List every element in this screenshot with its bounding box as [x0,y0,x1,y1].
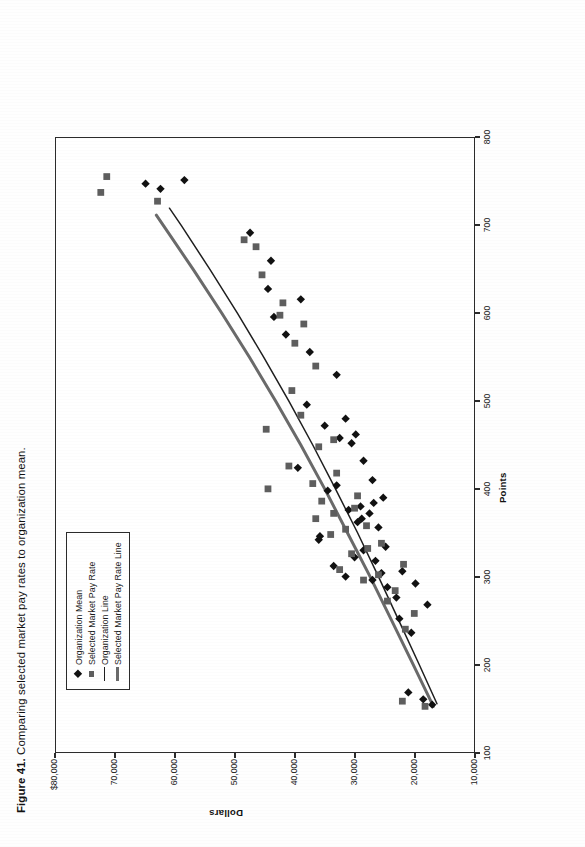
data-marker [375,571,382,578]
y-tick-label: 70,000 [109,759,119,809]
data-marker [423,600,431,608]
data-marker [347,439,355,447]
y-tick-label: $80,000 [49,759,59,809]
data-marker [341,572,349,580]
data-marker [359,457,367,465]
data-marker [265,485,272,492]
x-tick-label: 200 [482,643,492,687]
data-marker [333,470,340,477]
diamond-marker-icon [72,665,85,683]
x-tick-label: 700 [482,203,492,247]
data-marker [370,499,378,507]
x-tick-mark [475,136,480,137]
data-marker [404,688,412,696]
data-marker [282,330,290,338]
data-marker [348,550,355,557]
data-marker [411,579,419,587]
data-marker [384,598,391,605]
data-marker [336,566,343,573]
x-tick-label: 500 [482,379,492,423]
plot-area: Organization Mean Selected Market Pay Ra… [55,137,475,753]
thin-line-icon [98,665,111,683]
x-tick-label: 400 [482,467,492,511]
data-marker [312,363,319,370]
data-marker [332,371,340,379]
data-marker [428,700,436,708]
y-tick-label: 60,000 [169,759,179,809]
data-marker [327,531,334,538]
data-marker [422,703,429,710]
data-marker [400,561,407,568]
legend-item-selected-market-pay-rate: Selected Market Pay Rate [85,542,98,683]
data-marker [398,567,406,575]
x-tick-mark [475,224,480,225]
data-marker [241,236,248,243]
y-tick-mark [114,753,115,758]
legend-item-selected-market-pay-rate-line: Selected Market Pay Rate Line [111,542,124,683]
data-marker [303,400,311,408]
data-marker [180,176,188,184]
data-marker [378,540,385,547]
x-axis-title: Points [497,472,508,503]
data-marker [277,312,284,319]
data-marker [264,285,272,293]
document-page: Figure 41. Comparing selected market pay… [0,0,585,847]
data-marker [286,463,293,470]
legend-label: Organization Line [100,595,110,665]
data-marker [352,430,360,438]
y-tick-mark [414,753,415,758]
legend-label: Selected Market Pay Rate Line [113,542,123,665]
data-marker [330,436,337,443]
y-tick-label: 20,000 [409,759,419,809]
y-tick-label: 10,000 [469,759,479,809]
data-marker [280,299,287,306]
data-marker [246,229,254,237]
data-marker [341,414,349,422]
data-marker [309,480,316,487]
data-marker [419,695,427,703]
data-marker [154,198,161,205]
data-marker [312,515,319,522]
data-marker [399,698,406,705]
data-marker [321,421,329,429]
data-marker [392,587,399,594]
square-marker-icon [85,665,98,683]
x-tick-mark [475,400,480,401]
data-marker [332,481,340,489]
data-marker [318,498,325,505]
figure-number: Figure 41. [15,758,27,813]
data-marker [297,295,305,303]
y-tick-mark [474,753,475,758]
y-tick-mark [234,753,235,758]
data-marker [351,505,358,512]
data-marker [368,476,376,484]
x-tick-mark [475,752,480,753]
x-tick-mark [475,488,480,489]
y-tick-mark [294,753,295,758]
y-tick-mark [354,753,355,758]
data-marker [288,387,295,394]
data-marker [365,509,373,517]
chart-container: Organization Mean Selected Market Pay Ra… [47,113,509,813]
x-tick-label: 300 [482,555,492,599]
legend-item-organization-mean: Organization Mean [72,542,85,683]
data-marker [253,243,260,250]
x-tick-label: 100 [482,731,492,775]
data-marker [342,526,349,533]
data-marker [297,412,304,419]
thick-line-icon [111,665,124,683]
x-tick-mark [475,664,480,665]
x-tick-label: 800 [482,115,492,159]
data-marker [263,426,270,433]
data-marker [360,577,367,584]
data-marker [291,340,298,347]
x-tick-label: 600 [482,291,492,335]
y-tick-mark [54,753,55,758]
data-marker [402,626,409,633]
y-tick-mark [174,753,175,758]
legend-label: Selected Market Pay Rate [87,562,97,665]
data-marker [103,173,110,180]
legend-label: Organization Mean [74,590,84,665]
figure-caption: Figure 41. Comparing selected market pay… [14,113,28,813]
data-marker [363,522,370,529]
